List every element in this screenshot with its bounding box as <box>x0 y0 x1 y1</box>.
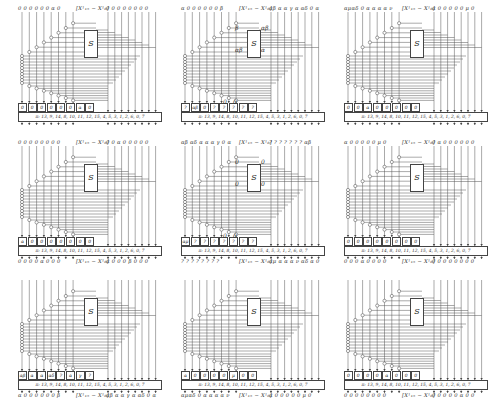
xor-node-icon <box>183 72 186 75</box>
output-center-label: [X¹₁₅ − X¹₈] <box>239 392 272 398</box>
xor-node-icon <box>20 322 23 325</box>
xor-node-icon <box>361 87 364 90</box>
xor-node-icon <box>28 352 31 355</box>
xor-node-icon <box>198 314 201 317</box>
arrow-down-icon <box>391 123 393 125</box>
xor-node-icon <box>376 226 379 229</box>
nibble-cell: ? <box>248 103 257 112</box>
xor-node-icon <box>191 184 194 187</box>
xor-node-icon <box>398 22 401 25</box>
nibble-cell: 0 <box>200 371 209 380</box>
nibble-cell: ? <box>191 237 200 246</box>
nibble-cell: 0 <box>85 103 94 112</box>
output-diff-right-label: αβ α α γ α αδ 0 α <box>106 392 156 398</box>
xor-node-icon <box>183 69 186 72</box>
arrow-down-icon <box>317 123 319 125</box>
xor-node-icon <box>346 334 349 337</box>
arrow-down-icon <box>453 123 455 125</box>
arrow-down-icon <box>304 123 306 125</box>
xor-node-icon <box>183 206 186 209</box>
difference-annotation: β <box>235 24 238 31</box>
difference-annotation: 0 <box>235 180 239 187</box>
arrow-down-icon <box>72 391 74 393</box>
xor-node-icon <box>72 290 75 293</box>
xor-node-icon <box>183 78 186 81</box>
arrow-down-icon <box>376 123 378 125</box>
xor-node-icon <box>191 50 194 53</box>
xor-node-icon <box>28 318 31 321</box>
xor-node-icon <box>361 221 364 224</box>
nibble-cell: ? <box>210 103 219 112</box>
difference-annotation: 0 <box>223 98 227 105</box>
nibble-cell: 0 <box>191 371 200 380</box>
xor-node-icon <box>20 60 23 63</box>
xor-node-icon <box>191 352 194 355</box>
arrow-down-icon <box>433 123 435 125</box>
arrow-down-icon <box>391 391 393 393</box>
xor-node-icon <box>20 69 23 72</box>
output-center-label: [X¹₁₅ − X¹₈] <box>76 258 109 264</box>
arrow-down-icon <box>213 123 215 125</box>
xor-node-icon <box>227 364 230 367</box>
xor-node-icon <box>213 304 216 307</box>
xor-node-icon <box>213 226 216 229</box>
xor-node-icon <box>183 349 186 352</box>
output-diff-right-label: 0 0 0 0 0 α 0 0 <box>432 392 475 398</box>
xor-node-icon <box>354 84 357 87</box>
xor-node-icon <box>183 322 186 325</box>
input-diff-right-label: 0 0 α 0 0 0 0 0 <box>106 139 149 145</box>
xor-node-icon <box>64 96 67 99</box>
xor-node-icon <box>183 331 186 334</box>
arrow-down-icon <box>35 123 37 125</box>
nibble-cell: 0 <box>363 237 372 246</box>
arrow-down-icon <box>290 123 292 125</box>
input-center-label: [X¹₁₅ − X¹₈] <box>76 139 109 145</box>
xor-node-icon <box>183 209 186 212</box>
xor-node-icon <box>346 325 349 328</box>
xor-node-icon <box>64 160 67 163</box>
xor-node-icon <box>346 349 349 352</box>
xor-node-icon <box>354 184 357 187</box>
difference-annotation: 0 <box>223 232 227 239</box>
xor-node-icon <box>205 89 208 92</box>
nibble-cell: 0 <box>66 237 75 246</box>
nibble-cell: 0 <box>392 237 401 246</box>
xor-node-icon <box>220 299 223 302</box>
arrow-down-icon <box>72 257 74 259</box>
xor-node-icon <box>42 309 45 312</box>
xor-node-icon <box>383 31 386 34</box>
xor-node-icon <box>213 360 216 363</box>
input-diff-left-label: α 0 0 0 0 0 0 β <box>181 5 223 11</box>
xor-node-icon <box>20 340 23 343</box>
nibble-cells: 0000α000 <box>344 371 421 380</box>
nibble-cell: 0 <box>76 237 85 246</box>
nibble-cells: αμ??????? <box>181 237 258 246</box>
input-diff-left-label: αβ αδ α α α γ 0 α <box>181 139 231 145</box>
xor-node-icon <box>183 57 186 60</box>
permutation-bar: π: 13, 9, 14, 8, 10, 11, 12, 15, 4, 5, 3… <box>18 246 162 256</box>
sbox: S <box>84 30 98 58</box>
xor-node-icon <box>20 81 23 84</box>
nibble-cell: 0 <box>219 371 228 380</box>
xor-node-icon <box>354 218 357 221</box>
output-diff-right-label: α 0 0 0 0 0 μ 0 <box>269 392 312 398</box>
permutation-bar: π: 13, 9, 14, 8, 10, 11, 12, 15, 4, 5, 3… <box>18 380 162 390</box>
nibble-cell: 0 <box>37 103 46 112</box>
input-center-label: [X¹₁₅ − X¹₈] <box>402 5 435 11</box>
xor-node-icon <box>183 334 186 337</box>
xor-node-icon <box>183 60 186 63</box>
xor-node-icon <box>183 203 186 206</box>
nibble-cell: α <box>382 371 391 380</box>
xor-node-icon <box>346 215 349 218</box>
xor-node-icon <box>346 328 349 331</box>
xor-node-icon <box>42 41 45 44</box>
xor-node-icon <box>20 54 23 57</box>
nibble-cell: ? <box>56 371 65 380</box>
nibble-cell: γ <box>76 371 85 380</box>
xor-node-icon <box>346 54 349 57</box>
xor-node-icon <box>20 203 23 206</box>
arrow-down-icon <box>120 123 122 125</box>
xor-node-icon <box>376 36 379 39</box>
difference-annotation: 0 <box>233 232 237 239</box>
xor-node-icon <box>383 299 386 302</box>
